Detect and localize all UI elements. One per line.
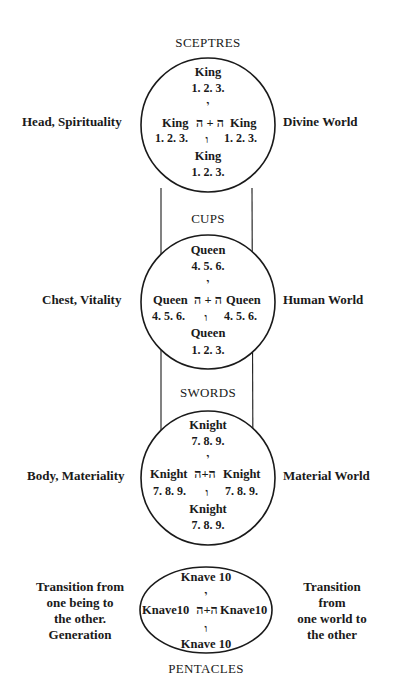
right-label-line: the other [296,627,368,643]
hebrew-he-plus-he: ה+ה [194,467,216,481]
yod-glyph: י [207,277,210,287]
middle-right-figure: Knight [223,467,261,481]
bottom-numbers: 7. 8. 9. [192,518,225,532]
left-label-line: the other. [36,611,124,627]
yod-glyph: י [207,99,210,109]
left-numbers: 1. 2. 3. [155,131,188,145]
yod-glyph: י [205,589,208,599]
right-label-block: Transition from one world to the other [296,579,368,643]
left-label-block: Transition from one being to the other. … [36,579,124,643]
hebrew-he-plus-he: ה + ה [194,293,222,307]
bottom-figure: King [195,149,221,163]
bottom-figure: Knight [189,502,227,516]
top-figure: Knight [189,418,227,432]
middle-left-figure: Queen [153,293,188,307]
hebrew-he-plus-he: ה+ה [196,603,218,617]
yod-glyph: י [207,452,210,462]
middle-right-figure: Knave10 [220,603,267,617]
top-numbers: 7. 8. 9. [192,434,225,448]
bottom-numbers: 1. 2. 3. [192,343,225,357]
left-label-line: Generation [36,627,124,643]
right-label: Divine World [283,114,358,130]
middle-left-figure: Knave10 [142,603,189,617]
middle-right-figure: King [230,116,256,130]
right-label: Human World [283,292,363,308]
bottom-figure: Knave 10 [181,637,231,651]
left-numbers: 7. 8. 9. [153,484,186,498]
top-figure: Knave 10 [181,570,231,584]
vav-glyph: ו [205,623,208,633]
top-numbers: 4. 5. 6. [192,259,225,273]
suit-title-swords: SWORDS [148,385,268,401]
suit-title-pentacles: PENTACLES [146,661,266,677]
top-figure: Queen [191,243,226,257]
vav-glyph: ו [206,487,209,497]
middle-right-figure: Queen [226,293,261,307]
right-label-line: one world to [296,611,368,627]
left-numbers: 4. 5. 6. [152,309,185,323]
right-numbers: 4. 5. 6. [224,309,257,323]
vav-glyph: ו [205,312,208,322]
hebrew-he-plus-he: ה + ה [196,116,224,130]
left-label-line: Transition from [36,579,124,595]
top-figure: King [195,65,221,79]
right-numbers: 7. 8. 9. [225,484,258,498]
middle-left-figure: King [162,116,188,130]
right-label-line: Transition from [296,579,368,611]
suit-title-cups: CUPS [148,211,268,227]
left-label: Body, Materiality [27,468,125,484]
right-label: Material World [283,468,370,484]
left-label: Head, Spirituality [22,114,122,130]
vav-glyph: ו [206,134,209,144]
left-label: Chest, Vitality [42,292,121,308]
top-numbers: 1. 2. 3. [192,81,225,95]
left-label-line: one being to [36,595,124,611]
right-numbers: 1. 2. 3. [224,131,257,145]
bottom-numbers: 1. 2. 3. [192,165,225,179]
bottom-figure: Queen [191,326,226,340]
suit-title-sceptres: SCEPTRES [148,35,268,51]
middle-left-figure: Knight [150,467,188,481]
